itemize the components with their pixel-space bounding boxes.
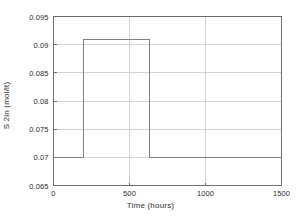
chart-figure: 0.0650.070.0750.080.0850.090.095 0500100… xyxy=(0,0,301,221)
y-tick-label: 0.065 xyxy=(0,181,49,190)
x-tick-label: 1000 xyxy=(197,189,214,198)
x-tick-label: 500 xyxy=(123,189,136,198)
y-tick-label: 0.095 xyxy=(0,12,49,21)
gridlines-group xyxy=(54,17,282,186)
y-axis-title: S 2in (mol/lt) xyxy=(2,82,11,130)
data-series-group xyxy=(54,39,282,157)
y-tick-label: 0.085 xyxy=(0,68,49,77)
x-axis-title: Time (hours) xyxy=(0,201,301,210)
x-tick-label: 0 xyxy=(51,189,55,198)
data-series-line xyxy=(54,39,282,157)
y-tick-label: 0.07 xyxy=(0,153,49,162)
y-tick-label: 0.09 xyxy=(0,40,49,49)
x-tick-label: 1500 xyxy=(273,189,290,198)
